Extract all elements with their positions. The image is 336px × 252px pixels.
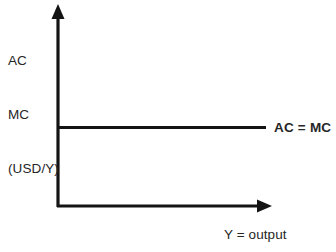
curve-label-ac-equals-mc: AC = MC: [274, 119, 331, 137]
economics-cost-curve-figure: AC MC (USD/Y) Y = output AC = MC: [0, 0, 336, 252]
y-axis-label-line-3: (USD/Y): [8, 160, 59, 178]
x-axis-arrowhead-icon: [257, 200, 272, 213]
y-axis-label-line-2: MC: [8, 106, 59, 124]
y-axis-label: AC MC (USD/Y): [8, 16, 59, 214]
y-axis-label-line-1: AC: [8, 52, 59, 70]
x-axis-label: Y = output: [224, 226, 287, 244]
